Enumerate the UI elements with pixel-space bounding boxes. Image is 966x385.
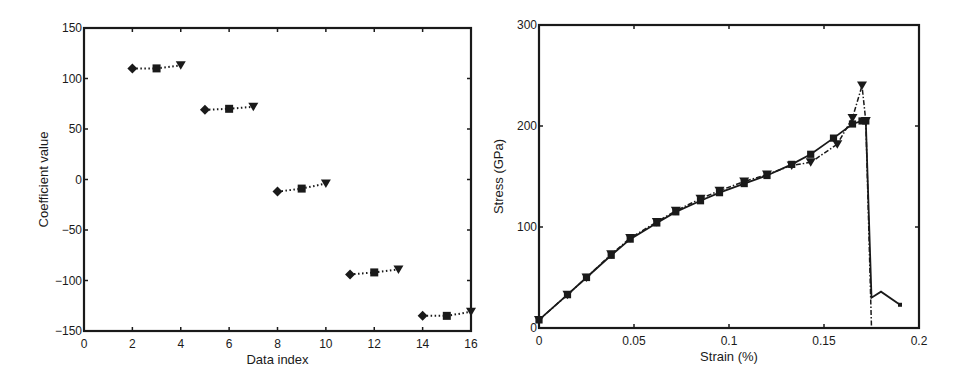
- x-tick-label: 0: [81, 337, 88, 351]
- y-tick-label: −150: [55, 324, 82, 338]
- x-tick-label: 2: [129, 337, 136, 351]
- y-tick-label: 300: [517, 18, 537, 32]
- figure-canvas: 0246810121416−150−100−50050100150Data in…: [0, 0, 966, 385]
- y-tick-label: −100: [55, 274, 82, 288]
- x-axis-title: Strain (%): [700, 349, 758, 364]
- square-marker-icon: [225, 105, 233, 113]
- triangle-down-marker-icon: [321, 180, 331, 189]
- triangle-down-marker-icon: [857, 82, 867, 91]
- x-axis-title: Data index: [246, 352, 309, 367]
- dash-dot-series-line: [539, 86, 872, 328]
- diamond-marker-icon: [127, 63, 137, 73]
- x-tick-label: 16: [464, 337, 478, 351]
- plot-frame: [539, 25, 919, 328]
- x-tick-label: 4: [177, 337, 184, 351]
- square-marker-icon: [298, 185, 306, 193]
- y-tick-label: 100: [62, 72, 82, 86]
- diamond-marker-icon: [200, 105, 210, 115]
- solid-series-line: [539, 121, 900, 320]
- y-tick-label: 100: [517, 220, 537, 234]
- y-tick-label: 150: [62, 21, 82, 35]
- x-tick-label: 12: [368, 337, 382, 351]
- diamond-marker-icon: [345, 269, 355, 279]
- x-tick-label: 0.1: [721, 334, 738, 348]
- square-marker-icon: [370, 268, 378, 276]
- y-axis-title: Stress (GPa): [491, 139, 506, 214]
- x-tick-label: 14: [416, 337, 430, 351]
- square-marker-icon: [898, 303, 902, 307]
- x-tick-label: 10: [319, 337, 333, 351]
- square-marker-icon: [807, 151, 814, 158]
- diamond-marker-icon: [273, 187, 283, 197]
- y-tick-label: 200: [517, 119, 537, 133]
- x-tick-label: 0.2: [911, 334, 928, 348]
- y-tick-label: 0: [75, 173, 82, 187]
- stress-strain-chart: 00.050.10.150.20100200300Strain (%)Stres…: [491, 18, 928, 364]
- plot-frame: [84, 28, 471, 331]
- x-tick-label: 8: [274, 337, 281, 351]
- y-tick-label: 50: [69, 122, 83, 136]
- y-tick-label: −50: [62, 223, 83, 237]
- square-marker-icon: [443, 312, 451, 320]
- diamond-marker-icon: [418, 311, 428, 321]
- y-axis-title: Coefficient value: [36, 132, 51, 228]
- x-tick-label: 0: [536, 334, 543, 348]
- x-tick-label: 6: [226, 337, 233, 351]
- x-tick-label: 0.15: [812, 334, 836, 348]
- x-tick-label: 0.05: [622, 334, 646, 348]
- coefficient-chart: 0246810121416−150−100−50050100150Data in…: [36, 21, 478, 367]
- square-marker-icon: [153, 64, 161, 72]
